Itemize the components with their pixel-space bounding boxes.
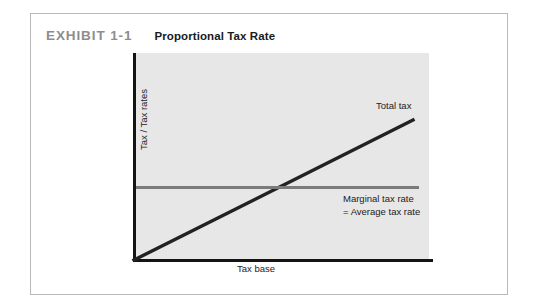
chart-plot: Total tax Marginal tax rate = Average ta… <box>31 14 509 296</box>
total-tax-line <box>134 120 413 260</box>
x-axis-label: Tax base <box>237 263 275 274</box>
marginal-tax-rate-label: Marginal tax rate <box>343 192 420 205</box>
y-axis-label: Tax / Tax rates <box>138 74 149 166</box>
marginal-tax-rate-line <box>136 186 419 189</box>
exhibit-frame: EXHIBIT 1-1 Proportional Tax Rate Total … <box>30 13 508 295</box>
average-tax-rate-label: = Average tax rate <box>343 205 420 218</box>
marginal-rate-label-group: Marginal tax rate = Average tax rate <box>343 192 420 218</box>
exhibit-root: EXHIBIT 1-1 Proportional Tax Rate Total … <box>0 0 537 308</box>
total-tax-label: Total tax <box>376 100 411 111</box>
series-line-layer <box>31 14 509 296</box>
